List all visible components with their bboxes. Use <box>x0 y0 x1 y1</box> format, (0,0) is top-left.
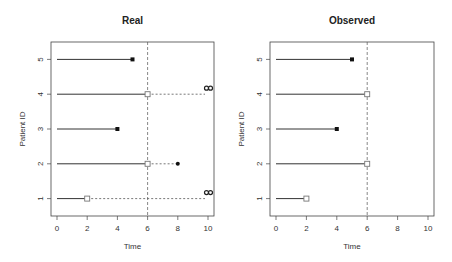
filled-square-marker <box>115 127 119 131</box>
x-tick-label: 2 <box>304 224 309 233</box>
open-square-marker <box>85 196 90 201</box>
y-tick-label: 5 <box>36 57 45 62</box>
open-square-marker <box>145 92 150 97</box>
x-tick-label: 0 <box>274 224 279 233</box>
y-tick-label: 3 <box>255 126 264 131</box>
x-tick-label: 8 <box>176 224 181 233</box>
real-plot: Real0246810Time12345Patient ID <box>18 15 214 251</box>
y-axis-label: Patient ID <box>237 111 246 146</box>
patient-row-2 <box>57 161 180 166</box>
filled-square-marker <box>350 57 354 61</box>
filled-square-marker <box>335 127 339 131</box>
filled-square-marker <box>131 57 135 61</box>
open-square-marker <box>365 92 370 97</box>
x-axis-label: Time <box>124 242 142 251</box>
x-tick-label: 10 <box>204 224 213 233</box>
x-tick-label: 6 <box>365 224 370 233</box>
chart-title: Observed <box>329 15 375 26</box>
infinity-icon <box>205 191 213 195</box>
y-tick-label: 4 <box>36 91 45 96</box>
chart-title: Real <box>122 15 143 26</box>
patient-row-1 <box>57 191 213 202</box>
patient-row-4 <box>276 92 370 97</box>
patient-row-3 <box>276 127 339 131</box>
patient-row-5 <box>276 57 354 61</box>
open-square-marker <box>365 161 370 166</box>
x-tick-label: 6 <box>145 224 150 233</box>
open-square-marker <box>304 196 309 201</box>
patient-row-4 <box>57 86 213 97</box>
filled-dot-marker <box>176 162 180 166</box>
observed-plot: Observed0246810Time12345Patient ID <box>237 15 434 251</box>
y-tick-label: 5 <box>255 57 264 62</box>
x-tick-label: 10 <box>424 224 433 233</box>
y-tick-label: 2 <box>36 161 45 166</box>
patient-row-3 <box>57 127 119 131</box>
y-tick-label: 1 <box>255 196 264 201</box>
y-tick-label: 1 <box>36 196 45 201</box>
y-tick-label: 2 <box>255 161 264 166</box>
patient-row-5 <box>57 57 135 61</box>
x-tick-label: 4 <box>335 224 340 233</box>
chart-container: Real0246810Time12345Patient IDObserved02… <box>0 0 452 262</box>
x-tick-label: 2 <box>85 224 90 233</box>
chart-svg: Real0246810Time12345Patient IDObserved02… <box>0 0 452 262</box>
patient-row-2 <box>276 161 370 166</box>
y-tick-label: 4 <box>255 91 264 96</box>
y-tick-label: 3 <box>36 126 45 131</box>
x-tick-label: 4 <box>115 224 120 233</box>
patient-row-1 <box>276 196 309 201</box>
x-axis-label: Time <box>343 242 361 251</box>
x-tick-label: 0 <box>55 224 60 233</box>
infinity-icon <box>205 86 213 90</box>
open-square-marker <box>145 161 150 166</box>
y-axis-label: Patient ID <box>18 111 27 146</box>
x-tick-label: 8 <box>395 224 400 233</box>
